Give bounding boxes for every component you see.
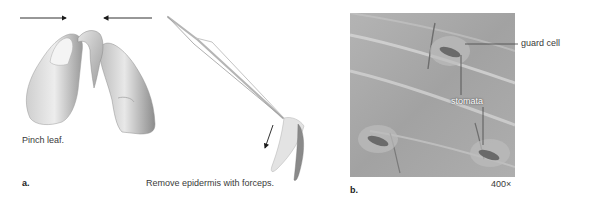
panel-b-letter: b. [350, 185, 358, 195]
panel-a-letter: a. [22, 178, 30, 188]
guard-cell-label: guard cell [521, 38, 560, 48]
stomata-label: stomata [451, 96, 483, 106]
magnification-label: 400× [491, 179, 511, 189]
peel-direction-arrow [265, 125, 273, 148]
leaf-piece-drawing [271, 117, 304, 180]
thumb-drawing [26, 34, 82, 125]
micrograph-texture [350, 13, 515, 177]
forceps-drawing [168, 17, 283, 118]
folded-leaf-drawing [78, 31, 103, 88]
remove-epidermis-caption: Remove epidermis with forceps. [146, 178, 274, 188]
finger-drawing [100, 43, 155, 134]
stomata-micrograph [350, 13, 515, 177]
pinch-leaf-caption: Pinch leaf. [22, 135, 64, 145]
